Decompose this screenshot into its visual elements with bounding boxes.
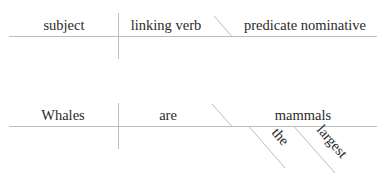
predicate-slant-divider bbox=[214, 16, 232, 37]
sentence-diagrams: subject linking verb predicate nominativ… bbox=[0, 0, 387, 182]
verb-label: linking verb bbox=[131, 17, 201, 33]
subject-word: Whales bbox=[41, 107, 85, 123]
modifier-the: the bbox=[269, 124, 293, 148]
template-diagram: subject linking verb predicate nominativ… bbox=[9, 13, 377, 59]
subject-label: subject bbox=[43, 17, 84, 33]
predicate-label: predicate nominative bbox=[244, 17, 366, 33]
predicate-slant-divider bbox=[212, 104, 232, 127]
example-diagram: Whales are mammals the largest bbox=[9, 103, 377, 173]
predicate-word: mammals bbox=[275, 107, 332, 123]
verb-word: are bbox=[159, 107, 177, 123]
